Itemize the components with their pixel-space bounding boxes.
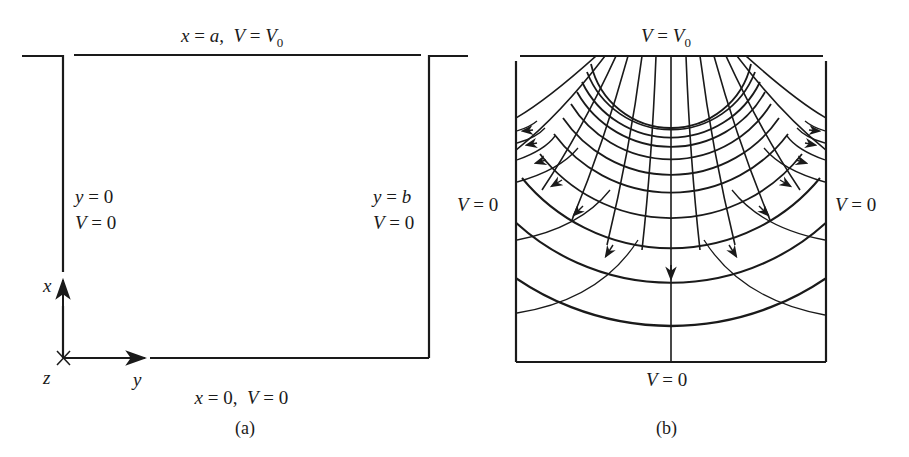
var-x: x <box>195 387 203 408</box>
x-axis-label: x <box>43 276 51 295</box>
panel-a-top-boundary-label: x = a, V = V0 <box>181 26 283 45</box>
equals-0: = 0 <box>658 369 688 390</box>
subscript-0: 0 <box>277 35 284 50</box>
var-v0: V <box>673 25 685 46</box>
panel-a-bottom-boundary-label: x = 0, V = 0 <box>185 369 288 407</box>
panel-a-caption: (a) <box>235 418 255 439</box>
equals: = <box>189 25 209 46</box>
panel-b-right-label: V = 0 <box>835 195 876 214</box>
panel-b-caption: (b) <box>656 418 677 439</box>
equals-0: = 0 <box>847 194 877 215</box>
equals: = <box>381 186 401 207</box>
panel-a-right-boundary-label: y = b V = 0 <box>373 184 414 236</box>
equals-0: = 0 <box>385 212 415 233</box>
equals: = <box>245 25 265 46</box>
equals-0: = 0 <box>259 387 289 408</box>
var-v: V <box>247 387 259 408</box>
var-v0: V <box>265 25 277 46</box>
var-v: V <box>646 369 658 390</box>
field-map <box>490 56 852 362</box>
equals-0: = 0 <box>469 194 499 215</box>
val-b: b <box>402 186 412 207</box>
val-a: a <box>210 25 220 46</box>
equals: = <box>653 25 673 46</box>
var-v: V <box>457 194 469 215</box>
y-axis-label: y <box>133 370 141 389</box>
field-lines <box>516 56 826 362</box>
left-wall <box>22 56 63 272</box>
var-v: V <box>641 25 653 46</box>
panel-b-top-label: V = V0 <box>641 26 691 45</box>
var-v: V <box>373 212 385 233</box>
subscript-0: 0 <box>684 35 691 50</box>
separator: , <box>219 25 233 46</box>
z-axis-label: z <box>43 368 50 387</box>
panel-b-left-label: V = 0 <box>457 195 498 214</box>
coordinate-axes <box>57 280 145 365</box>
var-v: V <box>75 212 87 233</box>
panel-b-bottom-label: V = 0 <box>646 370 687 389</box>
panel-a-left-boundary-label: y = 0 V = 0 <box>75 184 116 236</box>
var-v: V <box>835 194 847 215</box>
equals-0: = 0, <box>203 387 247 408</box>
equals-0: = 0 <box>83 186 113 207</box>
equals-0: = 0 <box>87 212 117 233</box>
var-v: V <box>233 25 245 46</box>
